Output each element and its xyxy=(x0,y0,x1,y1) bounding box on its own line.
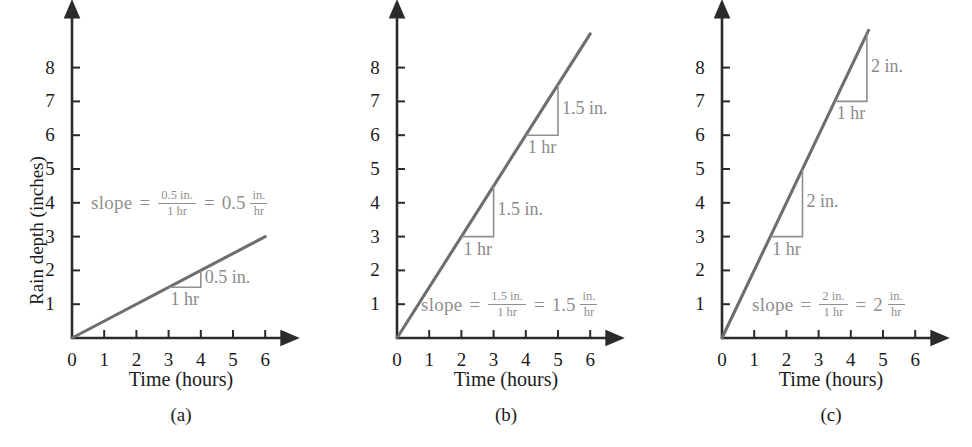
y-tick-label: 6 xyxy=(38,125,62,144)
slope-run-label: 1 hr xyxy=(528,137,557,158)
x-tick-label: 5 xyxy=(546,350,570,369)
y-tick-label: 6 xyxy=(363,125,387,144)
slope-run-label: 1 hr xyxy=(463,239,492,260)
equals-sign: = xyxy=(470,294,481,316)
slope-word: slope xyxy=(752,294,794,316)
y-tick-label: 3 xyxy=(688,227,712,246)
slope-equation: slope=1.5 in.1 hr=1.5in.hr xyxy=(421,290,597,319)
x-tick-label: 2 xyxy=(449,350,473,369)
x-tick-label: 0 xyxy=(60,350,84,369)
slope-equation: slope=2 in.1 hr=2in.hr xyxy=(752,290,905,319)
slope-word: slope xyxy=(91,192,133,214)
x-tick-label: 5 xyxy=(221,350,245,369)
y-axis-title: Rain depth (inches) xyxy=(26,156,48,305)
slope-run-label: 1 hr xyxy=(772,239,801,260)
x-tick-label: 1 xyxy=(742,350,766,369)
slope-run-label: 1 hr xyxy=(837,103,866,124)
fraction-denominator: 1 hr xyxy=(494,305,520,319)
equals-sign: = xyxy=(856,294,867,316)
y-tick-label: 7 xyxy=(38,91,62,110)
y-tick-label: 7 xyxy=(363,91,387,110)
x-tick-label: 4 xyxy=(189,350,213,369)
slope-unit-fraction: in.hr xyxy=(250,189,267,218)
y-tick-label: 2 xyxy=(363,260,387,279)
x-tick-label: 2 xyxy=(774,350,798,369)
x-axis-title: Time (hours) xyxy=(650,368,972,391)
x-tick-label: 0 xyxy=(710,350,734,369)
equals-sign: = xyxy=(534,294,545,316)
fraction-denominator: 1 hr xyxy=(164,204,190,218)
unit-denominator: hr xyxy=(252,204,266,218)
slope-equation: slope=0.5 in.1 hr=0.5in.hr xyxy=(91,189,267,218)
x-tick-label: 3 xyxy=(157,350,181,369)
slope-run-label: 1 hr xyxy=(171,289,200,310)
slope-unit-fraction: in.hr xyxy=(888,290,905,319)
slope-rise-label: 2 in. xyxy=(871,56,903,77)
unit-numerator: in. xyxy=(250,189,267,204)
equals-sign: = xyxy=(801,294,812,316)
panel-letter: (b) xyxy=(325,404,649,426)
fraction-numerator: 2 in. xyxy=(819,290,847,305)
slope-unit-fraction: in.hr xyxy=(580,290,597,319)
x-tick-label: 1 xyxy=(417,350,441,369)
x-tick-label: 6 xyxy=(253,350,277,369)
x-tick-label: 6 xyxy=(578,350,602,369)
slope-rise-label: 1.5 in. xyxy=(562,98,608,119)
x-tick-label: 0 xyxy=(385,350,409,369)
y-tick-label: 3 xyxy=(363,227,387,246)
fraction-denominator: 1 hr xyxy=(821,305,847,319)
chart-panel-c: 123456780123456Time (hours)(c)2 in.1 hr2… xyxy=(650,0,972,447)
slope-fraction: 2 in.1 hr xyxy=(819,290,847,319)
y-tick-label: 5 xyxy=(688,159,712,178)
slope-fraction: 0.5 in.1 hr xyxy=(158,189,196,218)
x-tick-label: 6 xyxy=(903,350,927,369)
x-tick-label: 1 xyxy=(92,350,116,369)
unit-denominator: hr xyxy=(889,305,903,319)
fraction-numerator: 0.5 in. xyxy=(158,189,196,204)
chart-panel-b: 123456780123456Time (hours)(b)1.5 in.1 h… xyxy=(325,0,649,447)
x-tick-label: 4 xyxy=(514,350,538,369)
y-tick-label: 5 xyxy=(363,159,387,178)
y-tick-label: 4 xyxy=(363,193,387,212)
x-axis-title: Time (hours) xyxy=(325,368,649,391)
x-tick-label: 2 xyxy=(124,350,148,369)
unit-numerator: in. xyxy=(888,290,905,305)
slope-rise-label: 2 in. xyxy=(807,191,839,212)
y-tick-label: 1 xyxy=(688,294,712,313)
y-tick-label: 1 xyxy=(363,294,387,313)
unit-numerator: in. xyxy=(580,290,597,305)
x-axis-title: Time (hours) xyxy=(0,368,324,391)
slope-result-value: 1.5 xyxy=(552,294,576,316)
chart-panel-a: 123456780123456Rain depth (inches)Time (… xyxy=(0,0,324,447)
slope-result-value: 0.5 xyxy=(222,192,246,214)
slope-fraction: 1.5 in.1 hr xyxy=(488,290,526,319)
y-tick-label: 8 xyxy=(38,58,62,77)
y-tick-label: 7 xyxy=(688,91,712,110)
x-tick-label: 3 xyxy=(807,350,831,369)
x-tick-label: 3 xyxy=(482,350,506,369)
unit-denominator: hr xyxy=(582,305,596,319)
y-tick-label: 4 xyxy=(688,193,712,212)
y-tick-label: 8 xyxy=(688,58,712,77)
rain-depth-slope-figure: 123456780123456Rain depth (inches)Time (… xyxy=(0,0,972,447)
panel-letter: (c) xyxy=(650,404,972,426)
x-tick-label: 4 xyxy=(839,350,863,369)
slope-word: slope xyxy=(421,294,463,316)
equals-sign: = xyxy=(204,192,215,214)
slope-rise-label: 1.5 in. xyxy=(498,199,544,220)
equals-sign: = xyxy=(140,192,151,214)
y-tick-label: 2 xyxy=(688,260,712,279)
slope-rise-label: 0.5 in. xyxy=(205,267,251,288)
panel-letter: (a) xyxy=(0,404,324,426)
slope-result-value: 2 xyxy=(873,294,883,316)
fraction-numerator: 1.5 in. xyxy=(488,290,526,305)
y-tick-label: 6 xyxy=(688,125,712,144)
y-tick-label: 8 xyxy=(363,58,387,77)
x-tick-label: 5 xyxy=(871,350,895,369)
